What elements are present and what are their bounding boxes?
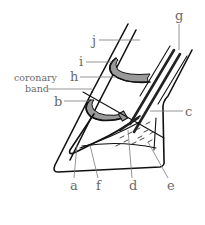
label-band: band — [25, 83, 49, 94]
leader-e — [148, 142, 168, 178]
label-b: b — [54, 94, 62, 109]
leader-f — [90, 145, 98, 178]
label-c: c — [185, 104, 192, 119]
hoof-diagram: j i h coronary band b g c a f d e — [0, 0, 205, 225]
digital-cushion-dashes — [116, 122, 153, 146]
sole-region — [82, 118, 156, 150]
leader-d — [128, 130, 132, 178]
label-e: e — [167, 178, 175, 193]
hoof-anatomy-figure: j i h coronary band b g c a f d e — [0, 0, 205, 225]
label-f: f — [96, 178, 102, 193]
label-d: d — [129, 178, 137, 193]
label-g: g — [175, 8, 183, 23]
label-coronary: coronary — [14, 72, 58, 83]
label-i: i — [79, 54, 83, 69]
upper-joint-i — [110, 58, 150, 82]
label-j: j — [90, 33, 96, 48]
label-a: a — [70, 178, 78, 193]
label-h: h — [70, 69, 79, 84]
